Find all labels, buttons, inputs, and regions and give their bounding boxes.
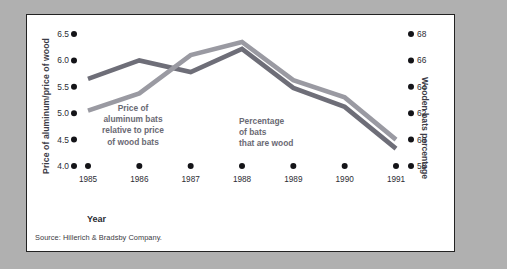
left-axis-tick-dot (71, 31, 77, 37)
x-axis-tick-dot (393, 163, 399, 169)
x-tick-label: 1985 (71, 175, 105, 184)
annotation-line: aluminum bats (79, 114, 187, 125)
right-tick-label: 58 (417, 161, 441, 171)
annotation-line: Percentage (239, 116, 349, 127)
x-axis-tick-dot (342, 163, 348, 169)
annotation-line: that are wood (239, 138, 349, 149)
x-axis-tick-dot (239, 163, 245, 169)
left-axis-tick-dot (71, 137, 77, 143)
annotation-line: relative to price (79, 125, 187, 136)
right-tick-label: 68 (417, 29, 441, 39)
series-annotation-wood: Percentageof batsthat are wood (239, 116, 349, 150)
source-note: Source: Hillerich & Bradsby Company. (35, 233, 162, 242)
left-tick-label: 6.5 (45, 29, 69, 39)
right-axis-tick-dot (408, 57, 414, 63)
left-axis-tick-dot (71, 163, 77, 169)
right-axis-tick-dot (408, 31, 414, 37)
right-tick-label: 66 (417, 55, 441, 65)
chart-figure: Price of aluminum/price of wood Wooden b… (26, 14, 455, 252)
x-axis-tick-dot (136, 163, 142, 169)
right-tick-label: 64 (417, 82, 441, 92)
x-axis-tick-dot (290, 163, 296, 169)
x-tick-label: 1988 (225, 175, 259, 184)
x-tick-label: 1989 (276, 175, 310, 184)
right-axis-tick-dot (408, 84, 414, 90)
x-tick-label: 1986 (122, 175, 156, 184)
annotation-line: Price of (79, 103, 187, 114)
right-axis-tick-dot (408, 110, 414, 116)
left-tick-label: 5.0 (45, 108, 69, 118)
left-tick-label: 6.0 (45, 55, 69, 65)
left-axis-tick-dot (71, 110, 77, 116)
series-annotation-aluminum: Price ofaluminum batsrelative to priceof… (79, 103, 187, 148)
left-tick-label: 4.0 (45, 161, 69, 171)
left-axis-tick-dot (71, 84, 77, 90)
x-axis-tick-dot (188, 163, 194, 169)
x-axis-tick-dot (85, 163, 91, 169)
annotation-line: of wood bats (79, 137, 187, 148)
x-axis-title: Year (87, 214, 106, 224)
left-tick-label: 4.5 (45, 135, 69, 145)
left-axis-tick-dot (71, 57, 77, 63)
right-tick-label: 62 (417, 108, 441, 118)
x-tick-label: 1991 (379, 175, 413, 184)
x-tick-label: 1990 (328, 175, 362, 184)
left-tick-label: 5.5 (45, 82, 69, 92)
x-tick-label: 1987 (174, 175, 208, 184)
right-axis-tick-dot (408, 163, 414, 169)
annotation-line: of bats (239, 127, 349, 138)
right-axis-tick-dot (408, 137, 414, 143)
right-tick-label: 60 (417, 135, 441, 145)
